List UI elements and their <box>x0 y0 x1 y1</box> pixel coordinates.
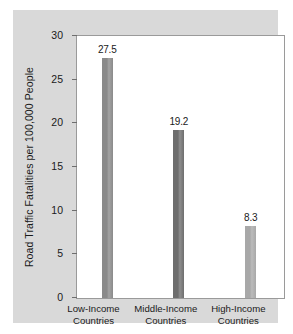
y-tick-label: 20 <box>51 116 63 128</box>
y-tick-label: 15 <box>51 160 63 172</box>
bar <box>245 226 256 298</box>
y-tick: 0 <box>72 297 77 298</box>
y-tick: 20 <box>72 122 77 123</box>
chart-figure: Road Traffic Fatalities per 100,000 Peop… <box>0 0 293 334</box>
y-tick-label: 5 <box>57 247 63 259</box>
x-category-label: Middle-IncomeCountries <box>134 303 197 326</box>
x-category-label: High-IncomeCountries <box>211 303 265 326</box>
x-category-label: Low-IncomeCountries <box>67 303 119 326</box>
plot-inner: 051015202530 27.519.28.3 <box>77 36 284 298</box>
bar-value-label: 8.3 <box>244 212 257 223</box>
y-tick: 30 <box>72 35 77 36</box>
x-category-line: High-Income <box>211 303 265 315</box>
plot-area: 051015202530 27.519.28.3 <box>76 35 285 299</box>
figure-panel: Road Traffic Fatalities per 100,000 Peop… <box>13 10 278 323</box>
y-tick-label: 10 <box>51 204 63 216</box>
y-tick-label: 30 <box>51 29 63 41</box>
x-category-line: Countries <box>134 315 197 327</box>
y-tick-label: 25 <box>51 73 63 85</box>
bar-value-label: 27.5 <box>98 44 117 55</box>
y-tick: 25 <box>72 79 77 80</box>
bar <box>102 58 113 298</box>
y-tick: 5 <box>72 253 77 254</box>
x-category-line: Countries <box>67 315 119 327</box>
x-category-line: Low-Income <box>67 303 119 315</box>
y-tick: 15 <box>72 166 77 167</box>
bar-value-label: 19.2 <box>170 116 189 127</box>
y-axis-title: Road Traffic Fatalities per 100,000 Peop… <box>23 67 35 267</box>
x-category-line: Middle-Income <box>134 303 197 315</box>
bar <box>173 130 184 298</box>
x-category-line: Countries <box>211 315 265 327</box>
y-tick: 10 <box>72 210 77 211</box>
y-tick-label: 0 <box>57 291 63 303</box>
